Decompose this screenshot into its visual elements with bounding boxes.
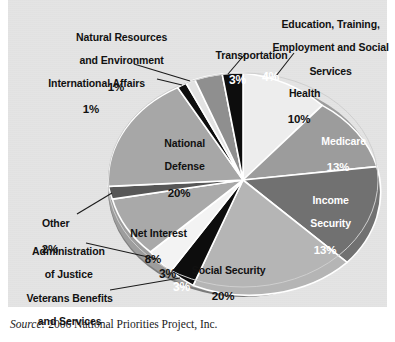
label-education-pct: 4%	[262, 70, 279, 84]
label-admin-justice-line2: of Justice	[45, 268, 93, 280]
label-social-security-name: Social Security	[192, 264, 266, 276]
chart-figure: Natural Resources and Environment 1% Int…	[0, 0, 395, 342]
label-education-line2: Employment and Social	[272, 41, 388, 53]
label-veterans-benefits: Veterans Benefits and Services	[5, 281, 123, 340]
label-natural-resources-line2: and Environment	[80, 54, 164, 66]
label-education-line3: Services	[309, 65, 351, 77]
source-text: 2006 National Priorities Project, Inc.	[45, 318, 217, 330]
label-income-security-line1: Income	[313, 194, 349, 206]
label-transportation-pct-onslice: 3%	[216, 61, 242, 101]
label-other-name: Other	[42, 217, 70, 229]
label-veterans-line1: Veterans Benefits	[26, 292, 112, 304]
label-international-affairs: International Affairs 1%	[25, 66, 157, 140]
label-transportation-pct: 3%	[229, 73, 246, 87]
label-veterans-pct-onslice: 3%	[160, 268, 186, 308]
label-admin-justice-line1: Administration	[32, 245, 105, 257]
source-prefix: Source:	[10, 318, 45, 330]
label-health-name: Health	[289, 87, 321, 99]
label-income-security-line2: Security	[310, 217, 351, 229]
label-income-security: Income Security 13%	[290, 183, 360, 280]
leader-other	[77, 193, 112, 214]
label-national-defense-pct: 20%	[140, 187, 218, 200]
label-net-interest-name: Net Interest	[130, 227, 187, 239]
label-international-affairs-pct: 1%	[25, 103, 157, 116]
label-national-defense-line2: Defense	[165, 160, 205, 172]
label-education-line1: Education, Training,	[281, 18, 379, 30]
label-medicare-pct: 13%	[305, 161, 371, 174]
label-veterans-pct: 3%	[173, 280, 190, 294]
source-note: Source: 2006 National Priorities Project…	[10, 318, 218, 330]
label-education-pct-onslice: 4%	[249, 58, 275, 98]
label-income-security-pct: 13%	[290, 244, 360, 257]
label-medicare-name: Medicare	[321, 135, 366, 147]
label-natural-resources-line1: Natural Resources	[76, 31, 167, 43]
label-international-affairs-name: International Affairs	[48, 77, 145, 89]
label-national-defense: National Defense 20%	[140, 126, 218, 223]
label-national-defense-line1: National	[164, 137, 205, 149]
